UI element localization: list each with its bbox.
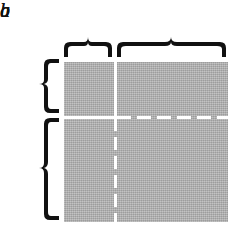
- vertical-divider-dashed: [114, 118, 117, 222]
- region-a-by-a: [64, 62, 114, 116]
- horizontal-divider-solid: [64, 116, 117, 119]
- left-segment-label-b: b: [0, 0, 10, 20]
- horizontal-divider-dashed: [117, 116, 228, 119]
- region-a-by-b: [64, 120, 114, 222]
- region-b-by-a: [117, 62, 228, 116]
- brace-top-a: [62, 36, 116, 58]
- vertical-divider-solid: [114, 62, 117, 118]
- square-dissection-figure: a b a b: [0, 0, 243, 230]
- brace-left-a: [38, 57, 60, 115]
- brace-left-b: [38, 116, 60, 222]
- dissected-square: [64, 62, 228, 222]
- brace-top-b: [115, 36, 230, 58]
- region-b-by-b: [117, 120, 228, 222]
